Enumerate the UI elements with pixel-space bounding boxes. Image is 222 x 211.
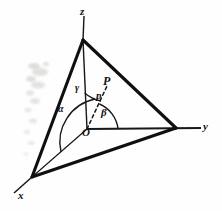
axis-label-y: y	[203, 121, 208, 132]
z-axis-line	[83, 16, 84, 40]
axis-label-x: x	[18, 190, 24, 201]
vector-label-p: p	[96, 90, 102, 101]
axis-label-z: z	[80, 6, 84, 17]
vector-direction-angles-figure	[0, 0, 222, 211]
point-label-P: P	[103, 75, 110, 87]
origin-label: O	[82, 127, 90, 138]
angle-label-beta: β	[101, 107, 107, 118]
angle-label-alpha: α	[58, 104, 64, 114]
angle-label-gamma: γ	[75, 83, 79, 93]
paper-background	[0, 0, 222, 211]
y-axis-line	[87, 128, 201, 129]
